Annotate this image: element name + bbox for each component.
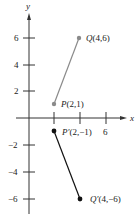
y-axis-arrow-icon — [27, 13, 31, 20]
segment-PQ — [54, 38, 79, 104]
x-axis-arrow-icon — [120, 116, 127, 120]
y-tick-neg2: −2 — [8, 140, 18, 150]
label-Q-prime: Q′(4,−6) — [90, 194, 121, 204]
point-P — [52, 102, 56, 106]
x-axis-label: x — [129, 113, 134, 123]
point-P-prime — [52, 129, 57, 134]
segment-PpQp — [54, 131, 80, 199]
label-P-prime: P′(2,−1) — [61, 127, 92, 137]
y-tick-6: 6 — [14, 33, 19, 43]
label-Q: Q(4,6) — [86, 33, 110, 43]
y-tick-4: 4 — [14, 60, 19, 70]
y-tick-neg6: −6 — [8, 194, 18, 204]
x-tick-6: 6 — [103, 127, 108, 137]
point-Q — [77, 36, 81, 40]
y-tick-2: 2 — [14, 86, 19, 96]
y-axis-label: y — [25, 1, 30, 11]
point-Q-prime — [78, 197, 83, 202]
label-P: P(2,1) — [60, 99, 84, 109]
coordinate-plot: y x 6 4 2 −2 −4 −6 6 P(2,1) Q(4,6) P′(2,… — [0, 0, 138, 217]
y-tick-neg4: −4 — [8, 167, 18, 177]
